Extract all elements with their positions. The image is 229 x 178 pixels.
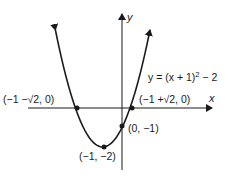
y-intercept-label: (0, −1): [128, 122, 159, 134]
vertex-label: (−1, −2): [79, 150, 116, 162]
y-axis-label: y: [126, 11, 134, 23]
right-root-point: [130, 106, 135, 111]
right-root-label: (−1 +√2, 0): [139, 93, 190, 105]
equation-label: y = (x + 1)2 − 2: [148, 70, 217, 83]
parabola-graph: y x y = (x + 1)2 − 2 (−1 −√2, 0) (−1 +√2…: [0, 0, 229, 178]
x-axis-label: x: [208, 92, 215, 104]
left-root-point: [75, 106, 80, 111]
y-intercept-point: [120, 124, 125, 129]
vertex-point: [102, 145, 107, 150]
left-root-label: (−1 −√2, 0): [3, 93, 54, 105]
